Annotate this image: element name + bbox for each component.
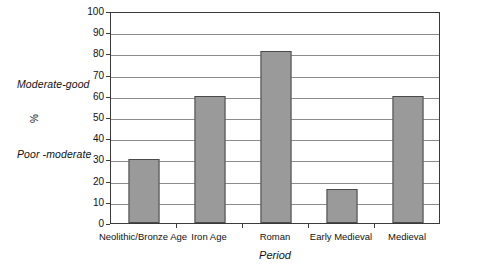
- x-tick-label: Iron Age: [191, 231, 226, 243]
- x-tick-label: Early Medieval: [310, 231, 372, 243]
- bar: [129, 159, 160, 223]
- bar-slot: [111, 13, 177, 223]
- x-tick-mark: [308, 224, 309, 228]
- y-tick-label: 50: [93, 113, 104, 123]
- x-tick-label: Medieval: [388, 231, 426, 243]
- x-tick-mark: [242, 224, 243, 228]
- y-tick-label: 100: [87, 7, 104, 17]
- y-tick-label: 80: [93, 49, 104, 59]
- y-tick-label: 20: [93, 177, 104, 187]
- bars-layer: [111, 13, 439, 223]
- x-tick-mark: [176, 224, 177, 228]
- x-tick-mark: [374, 224, 375, 228]
- y-tick-label: 60: [93, 92, 104, 102]
- x-axis-title: Period: [110, 249, 440, 261]
- x-tick-label: Neolithic/Bronze Age: [99, 231, 187, 243]
- plot-area: [110, 12, 440, 224]
- x-axis-ticks: [110, 224, 440, 229]
- y-tick-label: 90: [93, 28, 104, 38]
- bar: [327, 189, 358, 223]
- bar-slot: [309, 13, 375, 223]
- y-tick-label: 70: [93, 71, 104, 81]
- x-axis-labels: Neolithic/Bronze AgeIron AgeRomanEarly M…: [110, 231, 440, 245]
- bar-slot: [375, 13, 441, 223]
- x-tick-label: Roman: [260, 231, 291, 243]
- y-tick-label: 30: [93, 155, 104, 165]
- y-tick-label: 10: [93, 198, 104, 208]
- y-tick-label: 40: [93, 134, 104, 144]
- bar-slot: [177, 13, 243, 223]
- bar: [261, 51, 292, 223]
- bar: [393, 96, 424, 223]
- bar-slot: [243, 13, 309, 223]
- y-axis: 0102030405060708090100: [0, 12, 110, 224]
- bar-chart-figure: Moderate-good % Poor -moderate 010203040…: [0, 0, 479, 274]
- y-tick-label: 0: [98, 219, 104, 229]
- bar: [195, 96, 226, 223]
